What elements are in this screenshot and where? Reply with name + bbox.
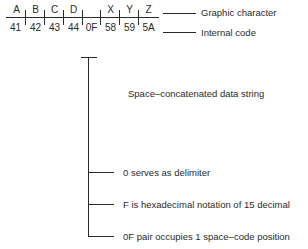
internal-code: 0F xyxy=(82,22,101,33)
internal-code: 43 xyxy=(45,22,64,33)
graphic-char: A xyxy=(7,4,26,15)
graphic-char: B xyxy=(26,4,45,15)
graphic-char: Y xyxy=(120,4,139,15)
internal-code: 58 xyxy=(101,22,120,33)
note-leader-line xyxy=(88,236,114,237)
graphic-leader-line xyxy=(163,13,196,14)
note-space-code: 0F pair occupies 1 space–code position xyxy=(123,231,290,242)
note-leader-line xyxy=(88,204,114,205)
bracket-vertical xyxy=(88,57,89,237)
graphic-character-label: Graphic character xyxy=(201,7,277,18)
bracket-top-bar xyxy=(81,57,97,58)
note-hexadecimal: F is hexadecimal notation of 15 decimal xyxy=(123,199,290,210)
internal-code-label: Internal code xyxy=(201,27,256,38)
internal-code: 42 xyxy=(26,22,45,33)
graphic-char: X xyxy=(101,4,120,15)
internal-code: 5A xyxy=(139,22,158,33)
internal-code: 44 xyxy=(64,22,83,33)
bracket-title: Space–concatenated data string xyxy=(128,88,264,99)
note-delimiter: 0 serves as delimiter xyxy=(123,167,210,178)
graphic-char: Z xyxy=(139,4,158,15)
internal-code: 59 xyxy=(120,22,139,33)
internal-code: 41 xyxy=(6,22,25,33)
graphic-char: C xyxy=(45,4,64,15)
graphic-char: D xyxy=(64,4,83,15)
note-leader-line xyxy=(88,172,114,173)
internal-leader-line xyxy=(163,32,196,33)
